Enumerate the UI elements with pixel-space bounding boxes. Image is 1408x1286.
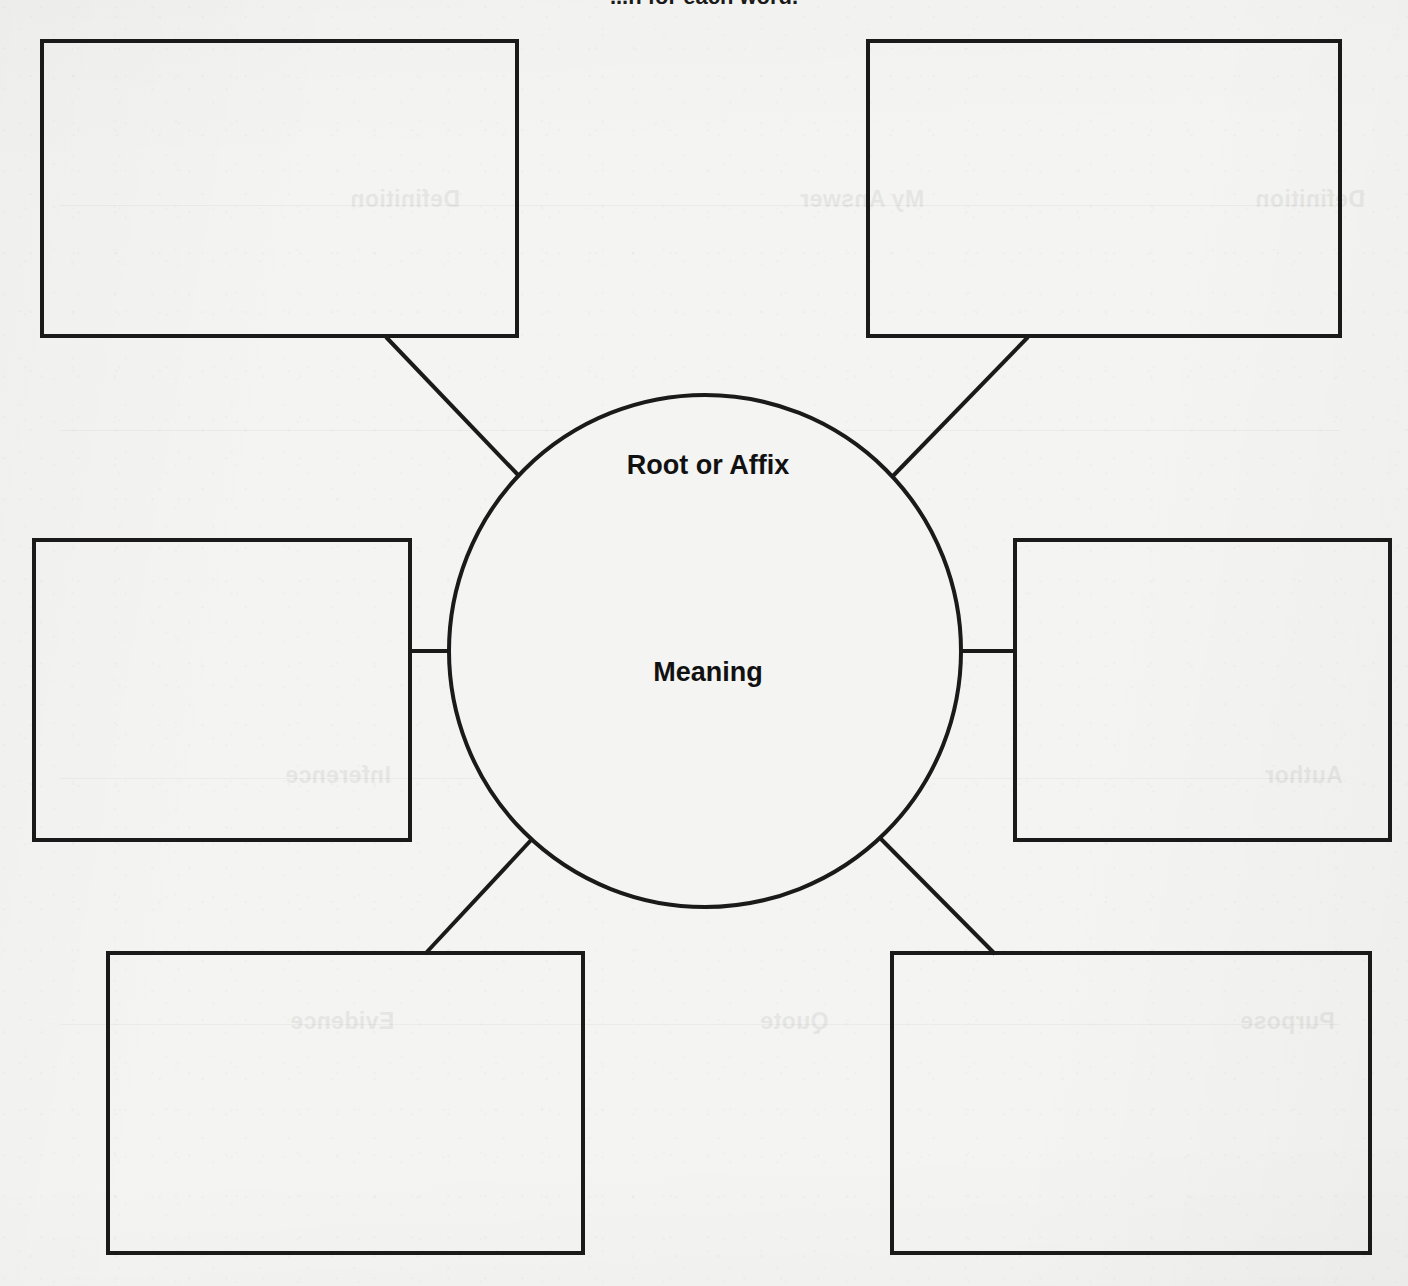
center-label-meaning: Meaning [653, 657, 763, 687]
page-heading: ...n for each word. [0, 0, 1408, 13]
box-middle-right[interactable] [1015, 540, 1390, 840]
box-middle-left[interactable] [34, 540, 410, 840]
page-heading-text: ...n for each word. [0, 0, 1408, 10]
center-label-root-or-affix: Root or Affix [627, 450, 789, 480]
word-web-diagram: Root or Affix Meaning [0, 0, 1408, 1286]
connector-top-right [891, 337, 1028, 478]
connector-bottom-left [425, 838, 533, 954]
connector-top-left [386, 337, 520, 477]
box-bottom-right[interactable] [892, 953, 1370, 1253]
box-bottom-left[interactable] [108, 953, 583, 1253]
box-top-left[interactable] [42, 41, 517, 336]
box-top-right[interactable] [868, 41, 1340, 336]
connector-bottom-right [880, 838, 995, 954]
